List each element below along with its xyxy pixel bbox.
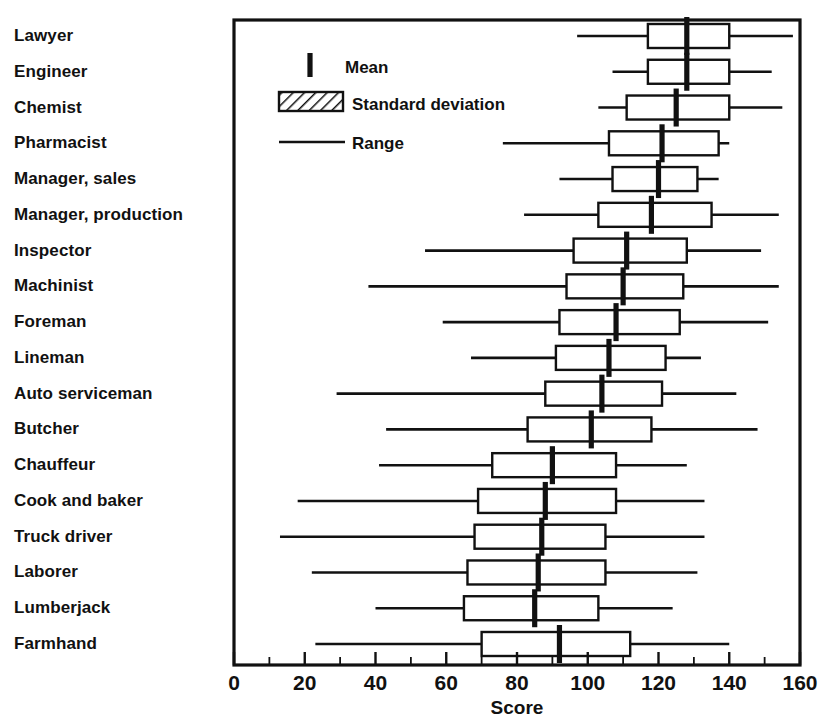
chart-row bbox=[613, 53, 772, 91]
chart-row bbox=[559, 160, 718, 198]
chart-row bbox=[337, 375, 737, 413]
chart-row bbox=[598, 89, 782, 127]
standard-deviation-box bbox=[613, 167, 698, 191]
chart-row bbox=[443, 303, 768, 341]
standard-deviation-box bbox=[482, 632, 631, 656]
legend-mean-label: Mean bbox=[345, 58, 388, 77]
standard-deviation-box bbox=[598, 203, 711, 227]
x-tick-label: 100 bbox=[570, 671, 605, 694]
legend-range-label: Range bbox=[352, 134, 404, 153]
x-tick-label: 60 bbox=[435, 671, 458, 694]
chart-row bbox=[471, 339, 701, 377]
x-tick-label: 0 bbox=[228, 671, 240, 694]
chart-row bbox=[368, 267, 778, 305]
x-tick-label: 20 bbox=[293, 671, 316, 694]
x-axis-ticks bbox=[234, 652, 800, 665]
standard-deviation-box bbox=[574, 239, 687, 263]
chart-row bbox=[379, 446, 687, 484]
chart-row bbox=[280, 518, 705, 556]
chart-row bbox=[315, 625, 729, 663]
chart-row bbox=[376, 589, 673, 627]
x-tick-label: 120 bbox=[641, 671, 676, 694]
chart-legend: Mean Standard deviation Range bbox=[279, 53, 505, 153]
x-axis-tick-labels: 020406080100120140160 bbox=[228, 671, 817, 694]
x-axis-title: Score bbox=[491, 697, 544, 718]
x-tick-label: 140 bbox=[712, 671, 747, 694]
chart-row bbox=[503, 124, 729, 162]
standard-deviation-box bbox=[464, 596, 598, 620]
chart-plot-svg: 020406080100120140160 Score Mean Standar… bbox=[0, 0, 829, 725]
x-tick-label: 160 bbox=[782, 671, 817, 694]
chart-row bbox=[425, 232, 761, 270]
x-tick-label: 40 bbox=[364, 671, 387, 694]
legend-sd-marker bbox=[279, 92, 343, 111]
chart-row bbox=[298, 482, 705, 520]
chart-row bbox=[524, 196, 779, 234]
chart-row bbox=[577, 17, 793, 55]
chart-row bbox=[386, 410, 757, 448]
chart-row bbox=[312, 553, 698, 591]
standard-deviation-box bbox=[559, 310, 679, 334]
x-tick-label: 80 bbox=[505, 671, 528, 694]
chart-figure: LawyerEngineerChemistPharmacistManager, … bbox=[0, 0, 829, 725]
legend-sd-label: Standard deviation bbox=[352, 95, 505, 114]
